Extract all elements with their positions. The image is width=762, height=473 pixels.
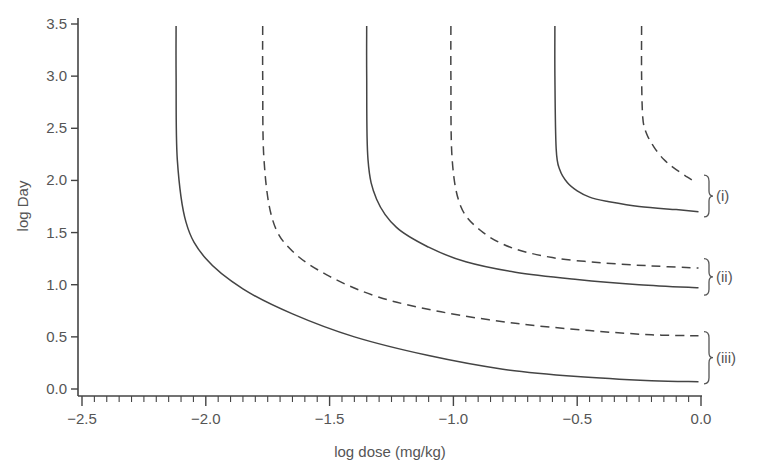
axes: 0.00.51.01.52.02.53.03.5−2.5−2.0−1.5−1.0… [46, 15, 711, 427]
curve-i-solid [555, 26, 699, 212]
bracket-icon [704, 332, 713, 384]
y-tick-label: 3.0 [46, 67, 67, 84]
curve-ii-solid [367, 26, 699, 288]
bracket-icon [704, 175, 713, 217]
bracket-icon [704, 259, 713, 296]
x-axis-label: log dose (mg/kg) [334, 443, 446, 460]
group-label: (i) [716, 187, 729, 204]
y-tick-label: 1.0 [46, 276, 67, 293]
curve-i-dashed [642, 26, 696, 182]
dose-response-chart: 0.00.51.01.52.02.53.03.5−2.5−2.0−1.5−1.0… [0, 0, 762, 473]
x-tick-label: −1.5 [315, 410, 345, 427]
curve-iii-dashed [263, 26, 699, 336]
y-tick-label: 2.5 [46, 119, 67, 136]
x-tick-label: −2.0 [191, 410, 221, 427]
y-tick-label: 0.5 [46, 328, 67, 345]
group-label: (iii) [716, 349, 736, 366]
group-label: (ii) [716, 268, 733, 285]
y-tick-label: 2.0 [46, 171, 67, 188]
y-tick-label: 1.5 [46, 224, 67, 241]
x-tick-label: −2.5 [67, 410, 97, 427]
curves [176, 26, 698, 382]
x-tick-label: −1.0 [439, 410, 469, 427]
y-tick-label: 0.0 [46, 380, 67, 397]
curve-ii-dashed [451, 26, 699, 268]
x-tick-label: 0.0 [691, 410, 712, 427]
y-tick-label: 3.5 [46, 15, 67, 32]
x-tick-label: −0.5 [562, 410, 592, 427]
group-brackets: (i)(ii)(iii) [704, 175, 736, 384]
y-axis-label: log Day [14, 180, 31, 231]
